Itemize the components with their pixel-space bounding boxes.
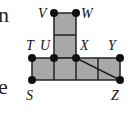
label-s: S <box>26 88 33 103</box>
label-z: Z <box>111 88 119 103</box>
grid-figure: V W T U X Y S Z <box>0 0 130 119</box>
point-x <box>72 54 80 62</box>
label-v: V <box>38 6 48 21</box>
label-u: U <box>40 38 51 53</box>
point-y <box>116 54 124 62</box>
label-y: Y <box>108 38 118 53</box>
point-w <box>72 9 80 17</box>
point-v <box>50 9 58 17</box>
label-t: T <box>26 38 35 53</box>
label-x: X <box>79 38 89 53</box>
point-z <box>116 76 124 84</box>
point-u <box>50 54 58 62</box>
point-t <box>28 54 36 62</box>
point-s <box>28 76 36 84</box>
label-w: W <box>81 6 94 21</box>
